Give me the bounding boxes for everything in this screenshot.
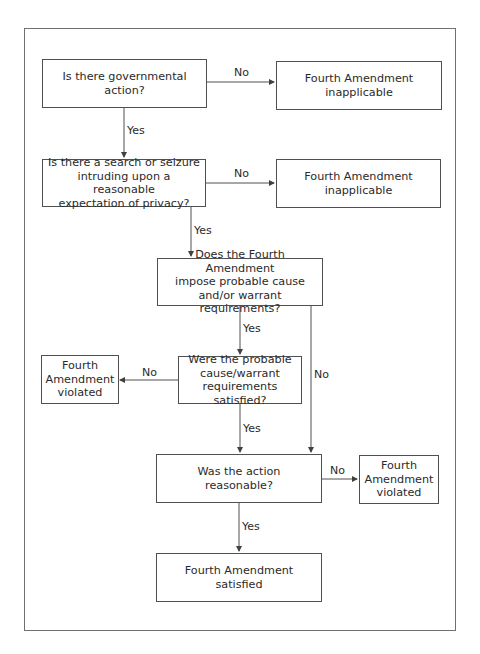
question-search-seizure: Is there a search or seizure intruding u… xyxy=(42,159,206,207)
result-violated-1: Fourth Amendment violated xyxy=(41,355,119,404)
edge-label-yes-2: Yes xyxy=(194,225,212,237)
edge-label-no-1: No xyxy=(234,67,249,79)
edge-label-no-2: No xyxy=(234,168,249,180)
edge-label-yes-1: Yes xyxy=(127,125,145,137)
edge-label-yes-3: Yes xyxy=(243,323,261,335)
edge-label-no-5: No xyxy=(330,465,345,477)
question-action-reasonable: Was the action reasonable? xyxy=(156,454,322,503)
edge-label-no-4: No xyxy=(142,367,157,379)
result-inapplicable-2: Fourth Amendment inapplicable xyxy=(276,159,441,208)
question-requirements-satisfied: Were the probable cause/warrant requirem… xyxy=(178,356,302,404)
result-violated-2: Fourth Amendment violated xyxy=(359,455,439,504)
question-impose-requirements: Does the Fourth Amendment impose probabl… xyxy=(157,258,323,306)
result-inapplicable-1: Fourth Amendment inapplicable xyxy=(276,61,442,110)
question-governmental-action: Is there governmental action? xyxy=(42,59,207,108)
edge-label-yes-5: Yes xyxy=(242,521,260,533)
edge-label-yes-4: Yes xyxy=(243,423,261,435)
edge-label-no-3: No xyxy=(314,369,329,381)
result-satisfied: Fourth Amendment satisfied xyxy=(156,553,322,602)
